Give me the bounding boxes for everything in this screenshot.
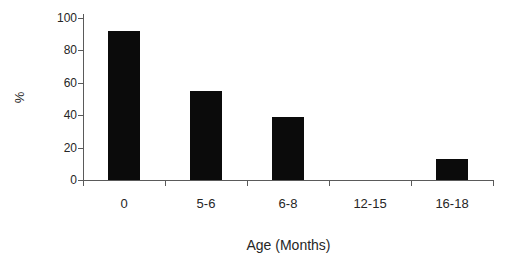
y-tick [78, 18, 83, 19]
y-tick-label: 40 [41, 108, 77, 122]
bar [436, 159, 468, 180]
y-tick-label: 80 [41, 43, 77, 57]
category-label: 0 [94, 196, 154, 211]
category-label: 5-6 [176, 196, 236, 211]
x-tick [493, 181, 494, 186]
y-tick [78, 83, 83, 84]
category-label: 16-18 [422, 196, 482, 211]
y-axis-line [83, 14, 84, 181]
y-axis-title: % [12, 83, 27, 113]
y-tick [78, 50, 83, 51]
x-tick [329, 181, 330, 186]
bar [108, 31, 140, 180]
x-tick [247, 181, 248, 186]
x-tick [83, 181, 84, 186]
bar [190, 91, 222, 180]
bar [272, 117, 304, 180]
y-tick-label: 100 [41, 11, 77, 25]
y-tick [78, 115, 83, 116]
x-tick [411, 181, 412, 186]
x-axis-title: Age (Months) [83, 237, 494, 253]
x-axis-line [83, 180, 494, 181]
bar-chart: % 02040608010005-66-812-1516-18 Age (Mon… [0, 0, 509, 261]
y-tick-label: 20 [41, 141, 77, 155]
x-tick [165, 181, 166, 186]
y-tick [78, 148, 83, 149]
category-label: 6-8 [258, 196, 318, 211]
y-tick-label: 0 [41, 173, 77, 187]
category-label: 12-15 [340, 196, 400, 211]
y-tick-label: 60 [41, 76, 77, 90]
